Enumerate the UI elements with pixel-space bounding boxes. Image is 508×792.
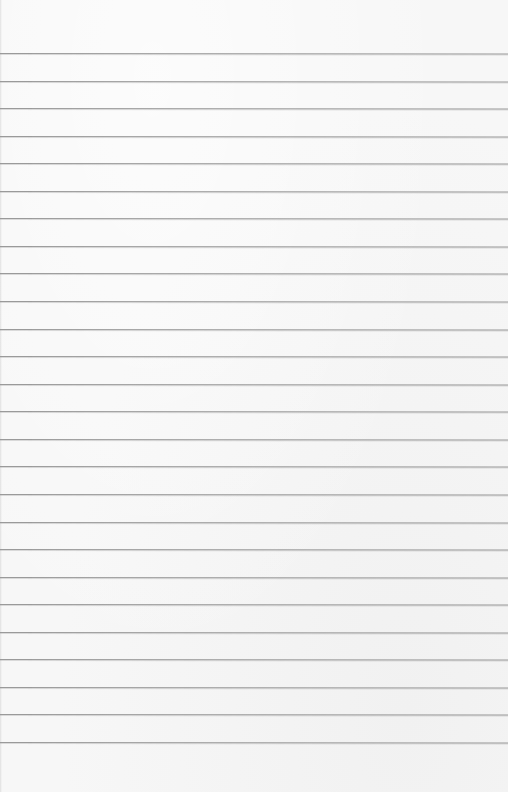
ruled-line [0, 494, 508, 496]
ruled-line [0, 549, 508, 551]
ruled-line [0, 714, 508, 716]
ruled-line [0, 466, 508, 468]
ruled-line [0, 384, 508, 386]
ruled-line [0, 273, 508, 275]
paper-left-edge-shadow [0, 0, 2, 792]
ruled-line [0, 604, 508, 606]
ruled-line [0, 53, 508, 55]
ruled-line [0, 439, 508, 441]
ruled-line [0, 577, 508, 579]
ruled-line [0, 632, 508, 634]
ruled-line [0, 191, 508, 193]
ruled-line [0, 108, 508, 110]
ruled-line [0, 522, 508, 524]
ruled-line [0, 356, 508, 358]
ruled-line [0, 411, 508, 413]
lined-paper-sheet [0, 0, 508, 792]
ruled-line [0, 329, 508, 331]
ruled-line [0, 218, 508, 220]
ruled-line [0, 301, 508, 303]
ruled-line [0, 246, 508, 248]
ruled-line [0, 81, 508, 83]
ruled-line [0, 163, 508, 165]
ruled-line [0, 687, 508, 689]
ruled-line [0, 742, 508, 744]
ruled-line [0, 659, 508, 661]
ruled-line [0, 136, 508, 138]
